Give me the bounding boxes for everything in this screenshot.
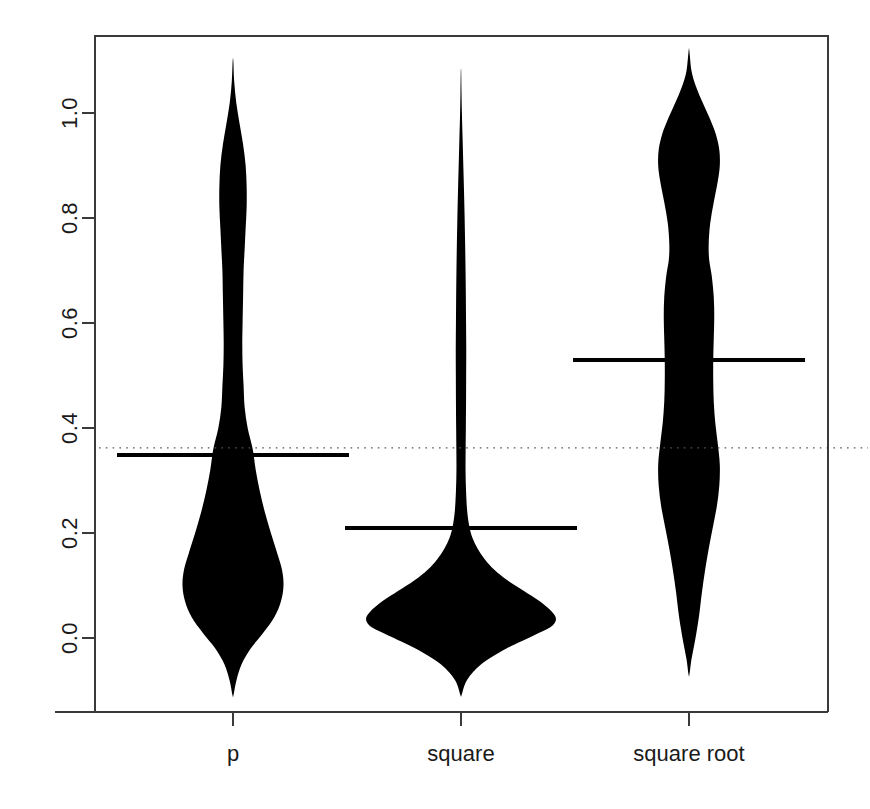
violin-square [366, 68, 556, 697]
violin-plot-figure: 0.00.20.40.60.81.0psquaresquare root [0, 0, 870, 809]
y-axis-label-0.0: 0.0 [57, 622, 82, 654]
violin-square-root [658, 47, 720, 676]
x-axis-label-p: p [227, 741, 239, 766]
x-axis-label-square: square [427, 741, 494, 766]
y-axis-label-0.6: 0.6 [57, 307, 82, 339]
y-axis-label-0.2: 0.2 [57, 517, 82, 549]
chart-canvas: 0.00.20.40.60.81.0psquaresquare root [0, 0, 870, 809]
violin-p [182, 58, 283, 698]
violin-series-group [182, 47, 719, 697]
y-axis-label-0.8: 0.8 [57, 202, 82, 234]
tick-label-group: 0.00.20.40.60.81.0psquaresquare root [57, 97, 745, 766]
y-axis-label-1.0: 1.0 [57, 97, 82, 129]
y-axis-label-0.4: 0.4 [57, 412, 82, 444]
x-axis-label-square-root: square root [633, 741, 744, 766]
